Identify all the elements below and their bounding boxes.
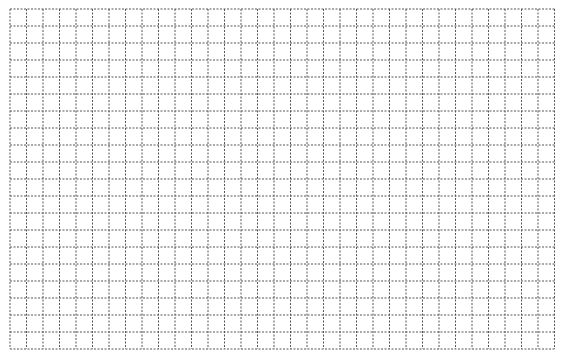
dashed-grid bbox=[0, 0, 569, 363]
